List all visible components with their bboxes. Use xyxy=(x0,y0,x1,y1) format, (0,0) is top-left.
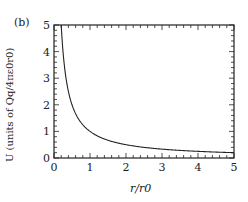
x-tick-label: 0 xyxy=(51,161,58,174)
plot-frame xyxy=(54,25,234,158)
x-tick-label: 5 xyxy=(231,161,238,174)
line-chart: 012345012345 xyxy=(0,0,248,202)
y-tick-label: 1 xyxy=(43,125,50,138)
y-tick-label: 3 xyxy=(43,72,50,85)
x-tick-label: 1 xyxy=(87,161,94,174)
y-tick-label: 2 xyxy=(43,99,50,112)
potential-curve xyxy=(61,25,234,153)
y-tick-label: 5 xyxy=(43,19,50,32)
y-tick-label: 0 xyxy=(43,152,50,165)
x-tick-label: 2 xyxy=(123,161,130,174)
y-tick-label: 4 xyxy=(43,46,50,59)
x-tick-label: 4 xyxy=(195,161,202,174)
x-tick-label: 3 xyxy=(159,161,166,174)
